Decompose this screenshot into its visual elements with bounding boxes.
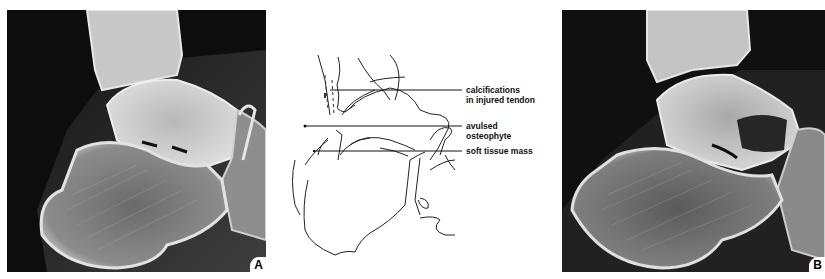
callout-avulsed-osteophyte: avulsed osteophyte — [466, 121, 511, 141]
panel-label-b: B — [809, 257, 825, 272]
tracing-diagram: calcifications in injured tendon avulsed… — [280, 40, 550, 270]
radiograph-image-b — [562, 10, 825, 272]
callout-soft-tissue-mass: soft tissue mass — [466, 146, 533, 156]
radiograph-panel-b: B — [562, 10, 825, 272]
radiograph-image-a — [7, 10, 266, 272]
callout-calcifications: calcifications in injured tendon — [466, 85, 535, 105]
panel-label-a: A — [250, 257, 266, 272]
radiograph-panel-a: A — [7, 10, 266, 272]
